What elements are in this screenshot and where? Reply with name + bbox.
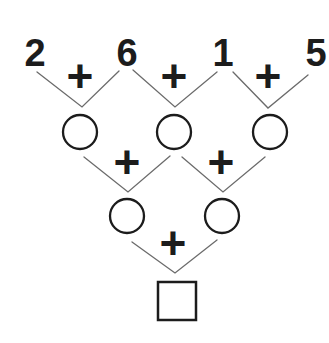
addend-2: 6	[116, 32, 137, 74]
addend-3: 1	[212, 32, 233, 74]
plus-operator-row1-2: +	[161, 50, 188, 102]
answer-circle-row2-3	[253, 115, 287, 149]
plus-operator-row3-1: +	[160, 217, 187, 269]
diagram-labels: 2 6 1 5 + + + + + +	[24, 32, 326, 269]
plus-operator-row1-3: +	[255, 50, 282, 102]
answer-circle-row3-1	[110, 199, 144, 233]
answer-circle-row3-2	[205, 199, 239, 233]
answer-circle-row2-2	[157, 115, 191, 149]
answer-square-final	[158, 282, 196, 320]
addend-1: 2	[24, 32, 45, 74]
plus-operator-row2-2: +	[208, 136, 235, 188]
addend-4: 5	[305, 32, 326, 74]
diagram-canvas: 2 6 1 5 + + + + + +	[0, 0, 329, 343]
plus-operator-row2-1: +	[114, 136, 141, 188]
answer-circle-row2-1	[63, 115, 97, 149]
addition-pyramid-diagram: 2 6 1 5 + + + + + +	[0, 0, 329, 343]
plus-operator-row1-1: +	[67, 50, 94, 102]
